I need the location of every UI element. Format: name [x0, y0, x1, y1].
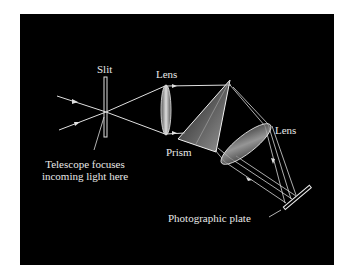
slit-label: Slit — [97, 63, 112, 75]
telescope-label: Telescope focuses incoming light here — [35, 158, 135, 182]
telescope-label-line-2: incoming light here — [35, 170, 135, 182]
lens-label-2: Lens — [275, 124, 296, 136]
slit-icon — [104, 77, 107, 137]
plate-pointer — [269, 210, 281, 217]
prism-icon — [178, 80, 230, 152]
lens-label-1: Lens — [156, 68, 177, 80]
prism-label: Prism — [166, 146, 192, 158]
spectrograph-drawing — [0, 0, 351, 278]
incoming-rays — [57, 86, 165, 134]
telescope-pointer — [94, 117, 104, 150]
collimating-lens-icon — [161, 85, 171, 135]
telescope-label-line-1: Telescope focuses — [35, 158, 135, 170]
photographic-plate-label: Photographic plate — [168, 212, 251, 224]
